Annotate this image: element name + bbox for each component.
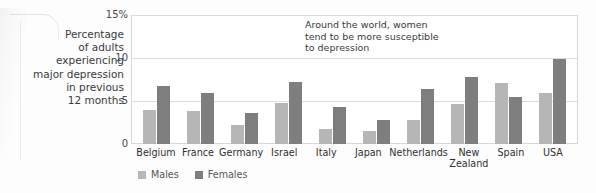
legend-label-males: Males (151, 170, 179, 180)
caption-line-3: major depression (8, 68, 124, 81)
bar-males-new-zealand[interactable] (451, 104, 464, 144)
bar-males-spain[interactable] (495, 83, 508, 144)
y-tick-label-0: 0 (68, 139, 128, 149)
bar-females-new-zealand[interactable] (465, 77, 478, 144)
depression-bar-chart-figure: Percentageof adultsexperiencingmajor dep… (0, 0, 596, 193)
bar-males-italy[interactable] (319, 129, 332, 144)
bar-males-france[interactable] (187, 111, 200, 144)
y-tick-label-10: 10 (68, 53, 128, 63)
chart-legend: Males Females (138, 170, 247, 180)
caption-line-0: Percentage (8, 28, 124, 41)
bar-females-israel[interactable] (289, 82, 302, 144)
bar-females-france[interactable] (201, 93, 214, 144)
chart-annotation: Around the world, women tend to be more … (305, 19, 439, 54)
bar-males-germany[interactable] (231, 125, 244, 144)
y-tick-label-15: 15% (68, 10, 128, 20)
y-tick-label-5: 5 (68, 96, 128, 106)
bar-males-israel[interactable] (275, 103, 288, 144)
x-axis-label-usa: USA (532, 147, 574, 177)
bar-females-belgium[interactable] (157, 86, 170, 144)
x-axis-label-israel: Israel (263, 147, 305, 177)
bar-females-italy[interactable] (333, 107, 346, 144)
bar-group-new-zealand (442, 15, 486, 144)
legend-swatch-females (195, 171, 203, 179)
bar-females-spain[interactable] (509, 97, 522, 144)
x-axis-label-japan: Japan (347, 147, 389, 177)
bar-males-japan[interactable] (363, 131, 376, 144)
legend-item-females[interactable]: Females (195, 170, 248, 180)
bar-group-belgium (135, 15, 179, 144)
bar-group-usa (530, 15, 574, 144)
bar-group-france (179, 15, 223, 144)
legend-swatch-males (138, 171, 146, 179)
caption-line-4: in previous (8, 81, 124, 94)
bar-males-netherlands[interactable] (407, 120, 420, 144)
bar-group-spain (486, 15, 530, 144)
bar-group-germany (223, 15, 267, 144)
bar-males-usa[interactable] (539, 93, 552, 144)
x-axis-label-netherlands: Netherlands (389, 147, 447, 177)
bar-males-belgium[interactable] (143, 110, 156, 144)
legend-item-males[interactable]: Males (138, 170, 179, 180)
bar-females-usa[interactable] (553, 59, 566, 144)
bar-females-japan[interactable] (377, 120, 390, 144)
x-axis-label-spain: Spain (490, 147, 532, 177)
bar-females-germany[interactable] (245, 113, 258, 144)
legend-label-females: Females (208, 170, 248, 180)
x-axis-label-new-zealand: New Zealand (448, 147, 490, 177)
x-axis-label-italy: Italy (305, 147, 347, 177)
bar-females-netherlands[interactable] (421, 89, 434, 144)
